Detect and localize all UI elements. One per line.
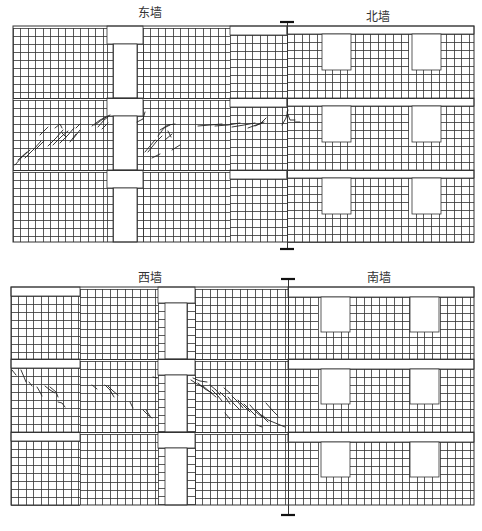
crack-line [58,402,65,407]
label-east-wall: 东墙 [138,3,162,20]
story-2 [13,98,474,170]
crack-line [158,125,170,136]
crack-line [225,413,230,419]
story-3 [11,432,474,505]
crack-line [73,130,80,139]
label-south-wall: 南墙 [367,268,391,285]
crack-line [76,124,80,128]
wall-elevation-drawing [0,0,482,531]
label-west-wall: 西墙 [138,268,162,285]
panel-top [13,22,474,249]
story-3 [13,170,474,242]
crack-line [25,141,41,158]
crack-line [55,124,62,128]
crack-line [92,385,97,389]
story-1 [11,287,474,359]
crack-line [250,405,262,417]
crack-line [12,370,16,375]
crack-line [256,410,268,422]
crack-line [108,386,118,395]
crack-line [232,396,243,408]
crack-line [287,112,295,120]
crack-line [40,127,48,135]
panel-bottom [11,279,474,515]
label-north-wall: 北墙 [366,7,390,24]
crack-distribution-figure: 东墙 北墙 西墙 南墙 [0,0,482,531]
story-2 [11,359,474,432]
story-1 [13,26,474,98]
